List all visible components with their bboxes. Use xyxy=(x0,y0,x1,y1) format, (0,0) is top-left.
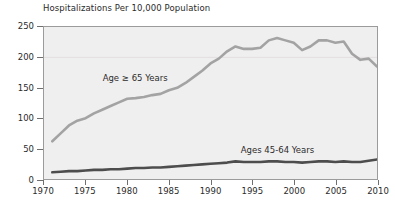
y-tick-mark xyxy=(37,118,43,119)
x-tick-label: 1980 xyxy=(116,186,138,196)
y-tick-label: 250 xyxy=(18,21,34,31)
x-tick-label: 1970 xyxy=(32,186,54,196)
chart-title: Hospitalizations Per 10,000 Population xyxy=(43,3,210,13)
y-tick-label: 50 xyxy=(23,144,34,154)
x-tick-label: 2010 xyxy=(367,186,389,196)
y-tick-mark xyxy=(37,88,43,89)
x-tick-mark xyxy=(43,180,44,185)
x-tick-mark xyxy=(211,180,212,185)
plot-area xyxy=(43,26,378,180)
y-tick-label: 150 xyxy=(18,83,34,93)
y-tick-mark xyxy=(37,149,43,150)
y-tick-label: 100 xyxy=(18,113,34,123)
x-tick-mark xyxy=(252,180,253,185)
x-tick-label: 2005 xyxy=(325,186,347,196)
y-tick-mark xyxy=(37,26,43,27)
x-tick-mark xyxy=(85,180,86,185)
x-tick-label: 1975 xyxy=(74,186,96,196)
x-tick-label: 1985 xyxy=(158,186,180,196)
series-paths xyxy=(52,38,377,172)
y-tick-label: 0 xyxy=(29,175,34,185)
x-tick-mark xyxy=(336,180,337,185)
x-tick-mark xyxy=(127,180,128,185)
y-axis: 050100150200250 xyxy=(0,0,34,209)
plot-svg xyxy=(44,27,377,179)
y-tick-mark xyxy=(37,57,43,58)
x-tick-label: 1990 xyxy=(200,186,222,196)
y-tick-label: 200 xyxy=(18,52,34,62)
series-line xyxy=(52,38,377,141)
x-tick-mark xyxy=(169,180,170,185)
x-tick-label: 1995 xyxy=(242,186,264,196)
chart-figure: Hospitalizations Per 10,000 Population 0… xyxy=(0,0,395,209)
x-tick-label: 2000 xyxy=(283,186,305,196)
series-label: Age ≥ 65 Years xyxy=(103,73,168,83)
x-tick-mark xyxy=(294,180,295,185)
series-line xyxy=(52,160,377,173)
series-label: Ages 45-64 Years xyxy=(241,145,314,155)
x-tick-mark xyxy=(378,180,379,185)
